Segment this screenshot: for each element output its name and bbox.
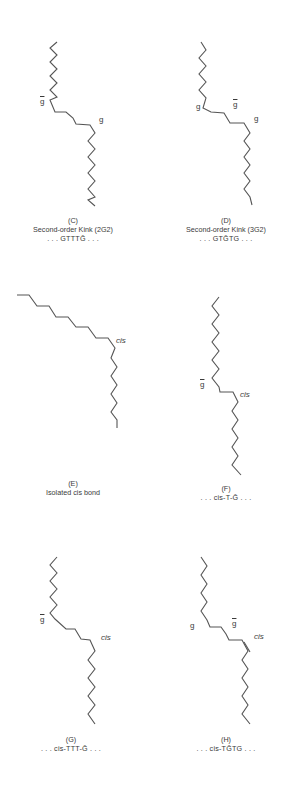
panel-letter: (H): [155, 735, 284, 744]
gauche-minus-label: g: [232, 619, 236, 628]
panel-title: Second-order Kink (3G2): [155, 225, 284, 234]
conformer-sequence: . . . cis-TḠTG . . .: [155, 744, 284, 753]
double-bond-h: [244, 642, 250, 652]
panel-letter: (D): [155, 216, 284, 225]
caption-d: (D) Second-order Kink (3G2) . . . GTḠTG …: [155, 216, 284, 243]
conformer-sequence: . . . cis-TTT-Ḡ . . .: [0, 744, 142, 753]
chain-g: [50, 557, 95, 724]
chain-c: [50, 42, 95, 206]
panel-title: Isolated cis bond: [2, 488, 144, 497]
conformer-sequence: . . . GTTTḠ . . .: [2, 234, 144, 243]
cis-label: cis: [240, 390, 250, 399]
chain-e: [17, 295, 117, 428]
gauche-minus-label: g: [40, 97, 44, 106]
chain-h: [201, 557, 250, 724]
chain-f: [212, 297, 241, 475]
gauche-label: g: [99, 115, 103, 124]
gauche-label: g: [196, 102, 200, 111]
caption-e: (E) Isolated cis bond: [2, 479, 144, 497]
chain-d: [199, 42, 252, 205]
gauche-minus-label: g: [200, 380, 204, 389]
conformer-sequence: . . . GTḠTG . . .: [155, 234, 284, 243]
gauche-minus-label: g: [233, 100, 237, 109]
caption-f: (F) . . . cis-T-Ḡ . . .: [155, 484, 284, 502]
caption-g: (G) . . . cis-TTT-Ḡ . . .: [0, 735, 142, 753]
gauche-label: g: [254, 114, 258, 123]
conformer-sequence: . . . cis-T-Ḡ . . .: [155, 493, 284, 502]
panel-title: Second-order Kink (2G2): [2, 225, 144, 234]
caption-c: (C) Second-order Kink (2G2) . . . GTTTḠ …: [2, 216, 144, 243]
gauche-minus-label: g: [40, 615, 44, 624]
panel-letter: (G): [0, 735, 142, 744]
cis-label: cis: [254, 632, 264, 641]
panel-letter: (C): [2, 216, 144, 225]
caption-h: (H) . . . cis-TḠTG . . .: [155, 735, 284, 753]
cis-label: cis: [101, 633, 111, 642]
cis-label: cis: [116, 336, 126, 345]
panel-letter: (F): [155, 484, 284, 493]
gauche-label: g: [190, 621, 194, 630]
panel-letter: (E): [2, 479, 144, 488]
